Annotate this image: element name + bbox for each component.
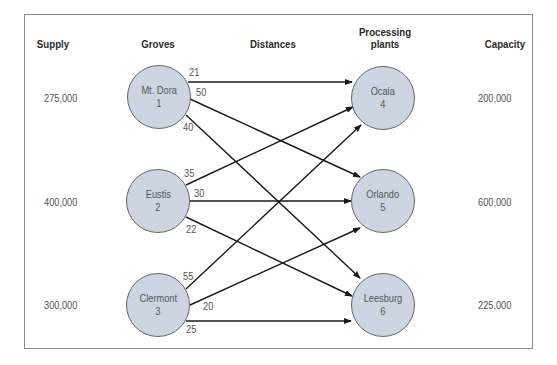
edge-3-5 (190, 228, 360, 305)
node-label: Leesburg (364, 292, 403, 305)
edge-1-5 (190, 99, 360, 177)
node-plant-leesburg: Leesburg 6 (351, 273, 415, 337)
distance-label-1-5: 50 (196, 86, 206, 98)
distance-label-3-4: 55 (183, 270, 193, 282)
node-label: Clermont (139, 292, 176, 305)
distance-label-2-6: 22 (186, 223, 196, 235)
node-grove-clermont: Clermont 3 (126, 273, 190, 337)
node-id: 3 (155, 305, 160, 318)
node-grove-mt-dora: Mt. Dora 1 (127, 65, 191, 129)
network-edges (0, 0, 557, 365)
edge-3-4 (186, 125, 361, 289)
node-id: 6 (380, 305, 385, 318)
edge-1-6 (186, 115, 360, 278)
node-grove-eustis: Eustis 2 (126, 169, 190, 233)
distance-label-1-4: 21 (189, 66, 199, 78)
node-id: 1 (156, 97, 161, 110)
node-label: Ocala (371, 85, 395, 98)
node-label: Eustis (145, 188, 170, 201)
edge-2-4 (186, 107, 353, 185)
edge-2-6 (186, 217, 352, 296)
distance-label-3-6: 25 (186, 323, 196, 335)
distance-label-3-5: 20 (203, 300, 213, 312)
node-id: 4 (380, 98, 385, 111)
node-plant-orlando: Orlando 5 (351, 169, 415, 233)
node-label: Orlando (367, 188, 400, 201)
distance-label-1-6: 40 (183, 121, 193, 133)
distance-label-2-5: 30 (194, 187, 204, 199)
node-label: Mt. Dora (141, 84, 176, 97)
distance-label-2-4: 35 (184, 167, 194, 179)
node-id: 2 (155, 201, 160, 214)
node-plant-ocala: Ocala 4 (351, 66, 415, 130)
node-id: 5 (380, 201, 385, 214)
